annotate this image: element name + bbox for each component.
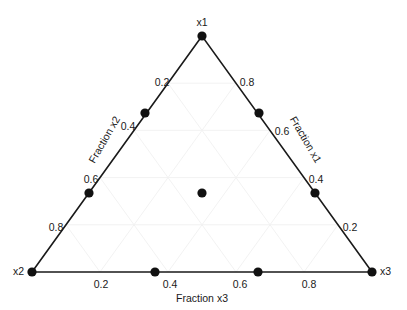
ternary-plot: 0.20.40.60.80.20.40.60.80.80.60.40.2 x1x… xyxy=(0,0,407,310)
vertex-label-x3: x3 xyxy=(380,265,391,277)
tick-label-x2-0.8: 0.8 xyxy=(49,221,64,233)
tick-label-x3-0.6: 0.6 xyxy=(233,278,248,290)
tick-label-x1-0.8: 0.8 xyxy=(240,76,255,88)
design-point-vertex[interactable] xyxy=(197,31,206,40)
design-point-vertex[interactable] xyxy=(367,267,376,276)
tick-label-x2-0.2: 0.2 xyxy=(155,76,170,88)
design-point-edge[interactable] xyxy=(310,188,319,197)
design-point-edge[interactable] xyxy=(253,267,262,276)
vertex-label-x2: x2 xyxy=(13,265,24,277)
design-point-edge[interactable] xyxy=(84,188,93,197)
vertex-label-x1: x1 xyxy=(196,16,207,28)
design-point-edge[interactable] xyxy=(254,108,263,117)
tick-label-x3-0.2: 0.2 xyxy=(94,278,109,290)
design-point-edge[interactable] xyxy=(150,267,159,276)
tick-label-x2-0.4: 0.4 xyxy=(121,120,136,132)
plot-background xyxy=(0,0,407,310)
tick-label-x1-0.6: 0.6 xyxy=(275,125,290,137)
tick-label-x3-0.4: 0.4 xyxy=(163,278,178,290)
design-point-centroid[interactable] xyxy=(197,188,206,197)
axis-title-x3: Fraction x3 xyxy=(176,292,228,304)
tick-label-x3-0.8: 0.8 xyxy=(302,278,317,290)
design-point-vertex[interactable] xyxy=(27,267,36,276)
tick-label-x1-0.2: 0.2 xyxy=(343,221,358,233)
design-point-edge[interactable] xyxy=(140,108,149,117)
ternary-plot-canvas: 0.20.40.60.80.20.40.60.80.80.60.40.2 x1x… xyxy=(0,0,407,310)
tick-label-x2-0.6: 0.6 xyxy=(84,173,99,185)
tick-label-x1-0.4: 0.4 xyxy=(309,173,324,185)
